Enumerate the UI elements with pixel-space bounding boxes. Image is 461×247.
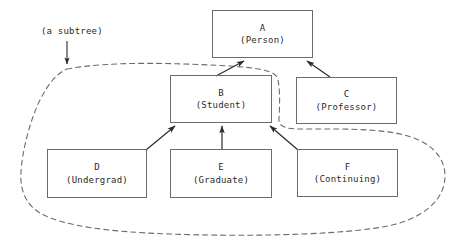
edge-f-to-b — [270, 126, 298, 150]
node-c-subtitle: (Professor) — [316, 101, 378, 113]
edge-b-to-a — [216, 61, 244, 76]
node-a-name: A — [260, 22, 266, 34]
edge-d-to-b — [146, 126, 175, 150]
node-a-subtitle: (Person) — [240, 34, 285, 46]
edge-c-to-a — [307, 61, 330, 77]
node-b-subtitle: (Student) — [196, 99, 247, 111]
node-box-c[interactable]: C (Professor) — [296, 77, 397, 124]
node-c-name: C — [344, 88, 350, 100]
node-e-name: E — [218, 161, 224, 173]
node-d-subtitle: (Undergrad) — [66, 174, 128, 186]
node-box-e[interactable]: E (Graduate) — [170, 149, 272, 198]
node-box-f[interactable]: F (Continuing) — [297, 149, 398, 197]
subtree-annotation-label: (a subtree) — [41, 26, 103, 36]
node-box-d[interactable]: D (Undergrad) — [47, 149, 147, 198]
node-f-name: F — [345, 161, 351, 173]
node-box-a[interactable]: A (Person) — [212, 10, 313, 58]
node-d-name: D — [94, 161, 100, 173]
node-box-b[interactable]: B (Student) — [170, 75, 272, 123]
node-e-subtitle: (Graduate) — [193, 174, 249, 186]
diagram-canvas: (a subtree) A (Person) B (Student) C (Pr… — [0, 0, 461, 247]
node-b-name: B — [218, 87, 224, 99]
node-f-subtitle: (Continuing) — [314, 173, 381, 185]
